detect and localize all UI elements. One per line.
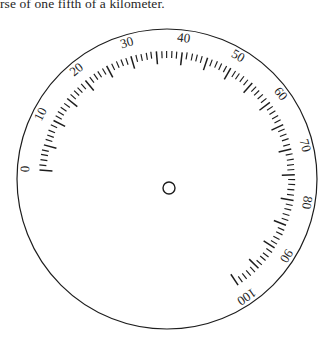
dial-minor-tick (276, 232, 282, 235)
dial-minor-tick (98, 71, 102, 77)
dial-minor-tick (261, 98, 266, 102)
dial-minor-tick (240, 76, 244, 82)
dial-minor-tick (46, 139, 53, 141)
dial-minor-tick (235, 74, 239, 80)
dial-minor-tick (121, 60, 124, 67)
dial-minor-tick (215, 61, 218, 67)
dial-minor-tick (141, 54, 142, 61)
dial-minor-tick (39, 165, 46, 166)
dial-minor-tick (200, 56, 202, 63)
dial-minor-tick (102, 69, 106, 75)
dial-minor-tick (186, 52, 187, 59)
dial-major-tick (131, 56, 135, 68)
dial-minor-tick (61, 107, 67, 111)
dial-major-tick (85, 81, 93, 91)
dial-minor-tick (74, 91, 79, 96)
dial-major-tick (67, 99, 77, 107)
dial-major-tick (39, 170, 52, 171)
dial-minor-tick (254, 90, 259, 95)
dial-minor-tick (176, 52, 177, 59)
dial-center-pivot (163, 182, 175, 194)
dial-scale-label: 100 (234, 285, 259, 308)
dial-minor-tick (232, 71, 236, 77)
dial-minor-tick (47, 135, 54, 137)
dial-minor-tick (278, 129, 284, 132)
dial-minor-tick (42, 150, 49, 152)
dial-minor-tick (136, 55, 138, 62)
dial-scale-label: 40 (176, 29, 191, 46)
dial-minor-tick (40, 160, 47, 161)
dial-scale-label: 10 (31, 105, 50, 123)
dial-minor-tick (78, 88, 83, 93)
dial-scale-label: 30 (118, 33, 135, 51)
dial-scale-label: 70 (297, 137, 315, 153)
dial-major-tick (203, 58, 207, 70)
dial-outer-circle (17, 29, 317, 329)
dial-major-tick (271, 125, 283, 131)
dial-minor-tick (269, 111, 275, 115)
dial-minor-tick (196, 55, 198, 62)
dial-minor-tick (71, 94, 76, 99)
dial-minor-tick (283, 144, 290, 146)
dial-minor-tick (251, 87, 256, 92)
dial-minor-tick (272, 116, 278, 119)
dial-minor-tick (274, 120, 280, 123)
dial-minor-tick (116, 61, 119, 67)
dial-major-tick (54, 120, 66, 126)
dial-minor-tick (260, 256, 265, 260)
dial-minor-tick (112, 64, 115, 70)
dial-minor-tick (286, 154, 293, 155)
dial-minor-tick (250, 267, 255, 272)
dial-minor-tick (257, 260, 262, 265)
dial-minor-tick (246, 270, 251, 275)
dial-minor-tick (273, 236, 279, 239)
dial-minor-tick (286, 204, 293, 205)
dial-minor-tick (267, 106, 273, 110)
dial-minor-tick (287, 189, 294, 190)
dial-minor-tick (49, 130, 55, 133)
dial-minor-tick (191, 54, 192, 61)
dial-minor-tick (244, 80, 248, 85)
dial-minor-tick (266, 248, 272, 252)
dial-scale-label: 80 (299, 195, 316, 210)
dial-drawing: 0102030405060708090100 (0, 8, 334, 349)
dial-minor-tick (284, 208, 291, 210)
dial-major-tick (156, 51, 157, 64)
dial-minor-tick (219, 64, 222, 70)
dial-minor-tick (271, 241, 277, 245)
dial-minor-tick (56, 116, 62, 119)
dial-minor-tick (90, 77, 94, 83)
dial-scale-label: 50 (229, 46, 248, 65)
dial-minor-tick (282, 218, 289, 220)
dial-minor-tick (151, 52, 152, 59)
dial-figure: 0102030405060708090100 (0, 8, 334, 349)
dial-minor-tick (41, 154, 48, 155)
dial-major-tick (274, 221, 286, 226)
dial-scale-label: 20 (66, 59, 86, 79)
dial-major-tick (281, 198, 294, 200)
dial-minor-tick (242, 273, 246, 278)
dial-minor-tick (51, 125, 57, 128)
dial-minor-tick (94, 74, 98, 80)
dial-major-tick (244, 83, 253, 93)
dial-minor-tick (126, 58, 128, 65)
dial-minor-tick (58, 112, 64, 116)
dial-minor-tick (238, 276, 242, 282)
dial-minor-tick (210, 60, 212, 67)
dial-major-tick (279, 149, 292, 152)
dial-minor-tick (64, 103, 70, 107)
dial-tick-marks (39, 51, 295, 285)
dial-scale-label: 0 (17, 165, 32, 172)
dial-minor-tick (146, 53, 147, 60)
dial-minor-tick (282, 139, 289, 141)
dial-scale-label: 60 (271, 84, 291, 103)
dial-major-tick (107, 66, 113, 77)
dial-scale-label: 90 (277, 247, 297, 266)
dial-minor-tick (263, 253, 269, 257)
dial-major-tick (44, 145, 57, 148)
dial-minor-tick (287, 159, 294, 160)
dial-major-tick (231, 274, 238, 285)
dial-minor-tick (223, 66, 226, 72)
dial-minor-tick (287, 194, 294, 195)
dial-minor-tick (283, 214, 290, 216)
